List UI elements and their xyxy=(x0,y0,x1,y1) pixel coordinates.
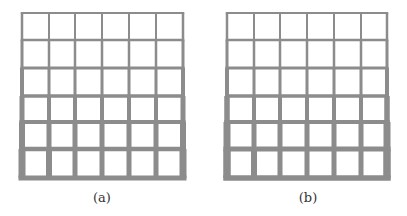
column-member xyxy=(226,13,229,40)
column-member xyxy=(155,40,158,68)
column-member xyxy=(128,13,130,40)
column-member xyxy=(306,13,308,40)
beam-member xyxy=(19,176,187,181)
column-member xyxy=(180,122,186,149)
column-member xyxy=(278,122,283,149)
column-member xyxy=(182,13,185,40)
column-member xyxy=(383,149,391,178)
column-member xyxy=(253,40,256,68)
column-member xyxy=(359,149,364,178)
column-member xyxy=(73,149,78,178)
beam-member xyxy=(226,39,389,42)
beam-member xyxy=(20,120,186,124)
column-member xyxy=(47,122,52,149)
column-member xyxy=(154,96,158,122)
column-member xyxy=(127,96,131,122)
column-member xyxy=(305,149,310,178)
column-member xyxy=(279,68,282,96)
column-member xyxy=(181,68,185,96)
column-member xyxy=(154,149,159,178)
column-member xyxy=(74,40,77,68)
beam-member xyxy=(225,94,389,98)
column-member xyxy=(100,122,105,149)
column-member xyxy=(180,149,187,178)
column-member xyxy=(359,122,364,149)
column-member xyxy=(226,40,229,68)
column-member xyxy=(224,96,230,122)
column-member xyxy=(386,40,389,68)
column-member xyxy=(127,122,132,149)
column-member xyxy=(73,122,78,149)
column-member xyxy=(279,13,281,40)
column-member xyxy=(253,68,256,96)
column-member xyxy=(46,149,52,178)
beam-member xyxy=(21,12,185,14)
column-member xyxy=(384,122,391,149)
column-member xyxy=(182,40,185,68)
column-member xyxy=(279,40,282,68)
column-member xyxy=(128,40,131,68)
column-member xyxy=(155,68,158,96)
caption-b: (b) xyxy=(288,190,328,205)
column-member xyxy=(48,68,51,96)
beam-member xyxy=(21,67,185,70)
grid-frame-diagram-a xyxy=(0,0,204,190)
column-member xyxy=(332,122,337,149)
column-member xyxy=(360,13,362,40)
column-member xyxy=(223,149,231,178)
column-member xyxy=(73,96,77,122)
column-member xyxy=(359,96,363,122)
column-member xyxy=(305,122,310,149)
column-member xyxy=(21,13,24,40)
column-member xyxy=(225,68,229,96)
column-member xyxy=(20,96,25,122)
column-member xyxy=(384,96,390,122)
figure-b: (b) xyxy=(204,0,407,216)
column-member xyxy=(101,68,104,96)
figure-a: (a) xyxy=(0,0,204,216)
column-member xyxy=(100,149,105,178)
column-member xyxy=(332,96,336,122)
column-member xyxy=(74,68,77,96)
column-member xyxy=(19,122,25,149)
column-member xyxy=(19,149,26,178)
column-member xyxy=(128,68,131,96)
column-member xyxy=(181,96,186,122)
column-member xyxy=(333,13,335,40)
column-member xyxy=(386,13,389,40)
caption-a: (a) xyxy=(82,190,122,205)
column-member xyxy=(101,13,103,40)
beam-member xyxy=(19,147,186,152)
beam-member xyxy=(224,120,390,124)
column-member xyxy=(252,122,257,149)
column-member xyxy=(155,13,157,40)
column-member xyxy=(251,149,257,178)
beam-member xyxy=(226,67,389,70)
column-member xyxy=(306,40,309,68)
grid-frame-diagram-b xyxy=(204,0,407,190)
column-member xyxy=(20,68,24,96)
column-member xyxy=(100,96,104,122)
column-member xyxy=(306,68,309,96)
column-member xyxy=(360,68,363,96)
column-member xyxy=(48,13,50,40)
column-member xyxy=(21,40,24,68)
column-member xyxy=(154,122,159,149)
beam-member xyxy=(21,39,185,42)
column-member xyxy=(127,149,132,178)
column-member xyxy=(305,96,309,122)
column-member xyxy=(252,96,256,122)
column-member xyxy=(332,149,337,178)
column-member xyxy=(385,68,389,96)
column-member xyxy=(74,13,76,40)
beam-member xyxy=(223,175,391,181)
column-member xyxy=(333,40,336,68)
column-member xyxy=(278,149,283,178)
column-member xyxy=(360,40,363,68)
column-member xyxy=(101,40,104,68)
beam-member xyxy=(20,94,185,98)
column-member xyxy=(47,96,51,122)
beam-member xyxy=(224,147,391,152)
column-member xyxy=(278,96,282,122)
column-member xyxy=(224,122,231,149)
